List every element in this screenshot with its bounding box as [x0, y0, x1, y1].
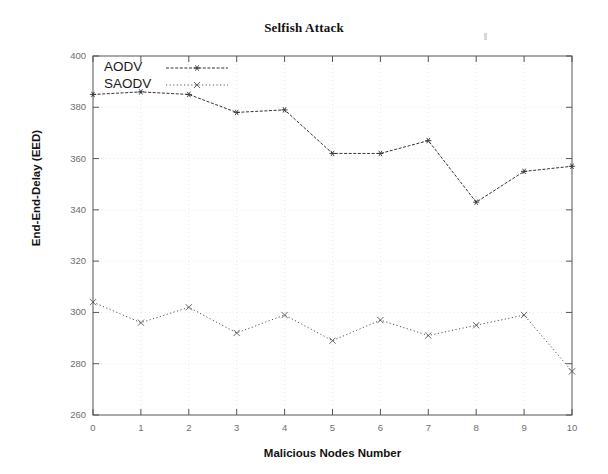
legend-label-aodv: AODV	[104, 59, 142, 74]
x-tick-label: 6	[368, 422, 392, 433]
data-point-marker	[425, 138, 431, 143]
x-tick-label: 10	[560, 422, 584, 433]
x-tick-label: 8	[464, 422, 488, 433]
data-point-marker	[329, 338, 335, 344]
x-axis-label: Malicious Nodes Number	[93, 447, 572, 459]
data-point-marker	[377, 317, 383, 323]
axis-ticks	[93, 56, 572, 415]
y-tick-label: 300	[52, 306, 86, 317]
data-point-marker	[377, 151, 383, 156]
data-point-marker	[234, 330, 240, 336]
y-tick-label: 360	[52, 153, 86, 164]
data-point-marker	[194, 65, 200, 70]
x-tick-label: 1	[129, 422, 153, 433]
x-tick-label: 4	[273, 422, 297, 433]
y-tick-label: 380	[52, 101, 86, 112]
chart-figure: Selfish Attack End-End-Delay (EED) Malic…	[0, 0, 608, 474]
data-point-marker	[425, 332, 431, 338]
y-tick-label: 280	[52, 358, 86, 369]
y-tick-label: 260	[52, 409, 86, 420]
x-tick-label: 0	[81, 422, 105, 433]
y-tick-label: 320	[52, 255, 86, 266]
gridlines	[93, 56, 572, 415]
x-tick-label: 2	[177, 422, 201, 433]
legend-label-saodv: SAODV	[104, 76, 151, 91]
x-tick-label: 3	[225, 422, 249, 433]
data-point-marker	[329, 151, 335, 156]
x-tick-label: 5	[321, 422, 345, 433]
y-tick-label: 340	[52, 204, 86, 215]
x-tick-label: 7	[416, 422, 440, 433]
x-tick-label: 9	[512, 422, 536, 433]
y-tick-label: 400	[52, 50, 86, 61]
y-axis-label: End-End-Delay (EED)	[30, 108, 42, 268]
legend-sample-lines	[166, 65, 228, 88]
data-point-marker	[234, 110, 240, 115]
plot-area	[0, 0, 608, 474]
plot-border	[93, 56, 572, 415]
data-point-marker	[186, 304, 192, 310]
series-aodv	[90, 89, 575, 205]
